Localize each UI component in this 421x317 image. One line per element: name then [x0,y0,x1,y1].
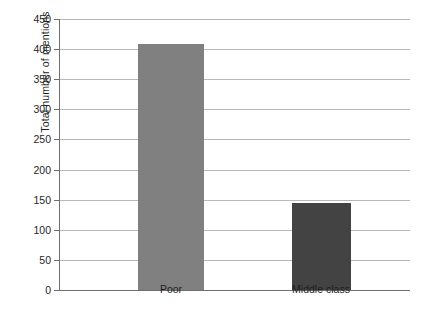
y-axis-tick [54,139,59,140]
y-axis-tick-label: 400 [33,43,51,55]
y-axis-tick-label: 100 [33,224,51,236]
y-axis-title: Total number of mentions [39,0,51,187]
gridline [60,170,410,171]
y-axis-tick-label: 250 [33,133,51,145]
y-axis-tick-label: 0 [45,284,51,296]
y-axis-tick-label: 350 [33,73,51,85]
x-axis-label-middle-class: Middle class [292,283,350,295]
gridline [60,49,410,50]
y-axis-line [59,19,60,291]
y-axis-tick-label: 450 [33,13,51,25]
y-axis-tick-label: 200 [33,164,51,176]
gridline [60,79,410,80]
y-axis-tick [54,230,59,231]
y-axis-tick [54,49,59,50]
gridline [60,260,410,261]
y-axis-tick [54,79,59,80]
y-axis-tick-label: 150 [33,194,51,206]
bar-poor [138,44,204,290]
bar-chart: Total number of mentions 050100150200250… [0,0,421,317]
gridline [60,230,410,231]
y-axis-tick [54,19,59,20]
plot-area: 050100150200250300350400450 [59,19,410,291]
gridline [60,19,410,20]
y-axis-tick [54,109,59,110]
bar-middle-class [292,203,351,290]
y-axis-tick [54,170,59,171]
y-axis-tick [54,200,59,201]
y-axis-tick [54,290,59,291]
y-axis-tick-label: 50 [39,254,51,266]
x-axis-label-poor: Poor [160,283,182,295]
gridline [60,200,410,201]
y-axis-tick [54,260,59,261]
gridline [60,109,410,110]
gridline [60,290,410,291]
gridline [60,139,410,140]
y-axis-tick-label: 300 [33,103,51,115]
